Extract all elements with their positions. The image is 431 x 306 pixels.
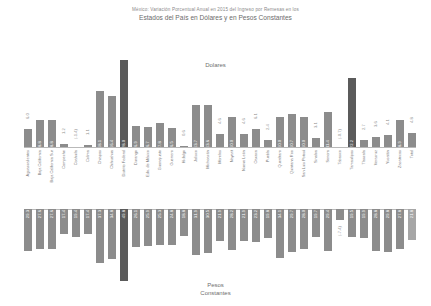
pesos-bar-value: 27.8 [398, 210, 402, 218]
dolares-bar: 6.9 [132, 126, 140, 148]
pesos-bar-value: 34.8 [110, 210, 114, 218]
dolares-bar-value: 8.8 [50, 141, 54, 147]
category-label: Tamaulipas [348, 150, 356, 194]
category-label-text: Campeche [62, 150, 66, 169]
dolares-bar-value: (-0.7) [338, 129, 342, 139]
dolares-bar-value: 1.1 [86, 129, 90, 135]
category-label: Querétaro [276, 150, 284, 194]
category-label-text: Tamaulipas [350, 150, 354, 170]
dolares-bar-value: 6.9 [134, 141, 138, 147]
dolares-bar-value: 7.8 [158, 141, 162, 147]
dolares-bar-value: 4.6 [218, 118, 222, 124]
category-label-text: Nuevo León [242, 150, 246, 171]
pesos-bar: 49.8 [120, 209, 128, 281]
dolares-bar-value: 1.2 [62, 128, 66, 134]
pesos-bar: 21.9 [216, 209, 224, 241]
pesos-bar-value: 17.4 [86, 210, 90, 218]
category-label-text: Edo. de México [146, 150, 150, 177]
pesos-bar-value: 19.9 [362, 210, 366, 218]
pesos-legend-line-1: Pesos [0, 281, 431, 289]
dolares-bar: 4.6 [240, 134, 248, 149]
pesos-bar-value: 17.4 [62, 210, 66, 218]
dolares-bar-value: 2.4 [266, 125, 270, 131]
category-label: Campeche [60, 150, 68, 194]
pesos-bar: 29.8 [384, 209, 392, 252]
category-label: Distrito Federal [120, 150, 128, 194]
pesos-bar: 25.3 [156, 209, 164, 245]
dolares-bar: 18.1 [96, 91, 104, 148]
dolares-bar: 4.8 [408, 133, 416, 148]
pesos-bar-value: 18.8 [182, 210, 186, 218]
title-line-2: Estados del País en Dólares y en Pesos C… [0, 13, 431, 22]
category-label-text: Jalisco [194, 150, 198, 162]
dolares-axis-line [24, 147, 416, 148]
dolares-bar: 4.6 [216, 134, 224, 149]
dolares-bar-value: 6.1 [254, 113, 258, 119]
dolares-bar: 11.4 [324, 112, 332, 148]
category-label-text: Nayarit [230, 150, 234, 162]
category-label-text: Chihuahua [110, 150, 114, 169]
pesos-bar: 31.9 [192, 209, 200, 255]
category-label-text: Baja California Sur [50, 150, 54, 182]
category-label: Guerrero [168, 150, 176, 194]
pesos-bar: 17.4 [84, 209, 92, 234]
pesos-bar-value: 23.2 [254, 210, 258, 218]
chart-title: México: Variación Porcentual Anual en 20… [0, 6, 431, 22]
pesos-bar: 29.3 [24, 209, 32, 251]
dolares-bar-value: 0.6 [182, 130, 186, 136]
category-label: Nayarit [228, 150, 236, 194]
category-label-text: Yucatán [386, 150, 390, 164]
dolares-bars: 6.08.88.81.2(-1.4)1.118.116.428.06.96.77… [24, 55, 416, 148]
category-label: Morelos [216, 150, 224, 194]
pesos-bar: 28.2 [228, 209, 236, 250]
category-label-text: Coahuila [74, 150, 78, 165]
category-label-text: Distrito Federal [122, 150, 126, 176]
category-axis-labels: AguascalientesBaja CaliforniaBaja Califo… [24, 150, 416, 194]
pesos-bar-value: 29.7 [290, 210, 294, 218]
pesos-bar-value: 34.1 [278, 210, 282, 218]
pesos-bar-value: 29.8 [386, 210, 390, 218]
category-label: Yucatán [384, 150, 392, 194]
pesos-bar: 30.5 [204, 209, 212, 253]
pesos-bar-value: 25.3 [158, 210, 162, 218]
category-label: Aguascalientes [24, 150, 32, 194]
category-label-text: Morelos [218, 150, 222, 164]
category-label-text: Puebla [266, 150, 270, 162]
dolares-bar-value: 6.0 [26, 113, 30, 119]
pesos-chart: 29.327.627.617.419.417.437.334.849.826.1… [24, 209, 416, 281]
pesos-bar-value: 25.9 [146, 210, 150, 218]
pesos-bar: 19.5 [348, 209, 356, 237]
category-label-text: Total [410, 150, 414, 158]
pesos-bar-value: 27.6 [50, 210, 54, 218]
category-label-text: Hidalgo [182, 150, 186, 163]
category-label: Jalisco [192, 150, 200, 194]
dolares-bar: 8.8 [36, 120, 44, 148]
pesos-bar: 29.4 [324, 209, 332, 251]
pesos-bar: 17.4 [60, 209, 68, 234]
pesos-bar-value: 21.8 [410, 210, 414, 218]
category-label: Tlaxcala [360, 150, 368, 194]
dolares-bar: 6.5 [168, 128, 176, 149]
pesos-bar-value: 28.2 [230, 210, 234, 218]
category-label: Michoacán [204, 150, 212, 194]
category-label-text: Tabasco [338, 150, 342, 165]
pesos-bar: 28.0 [300, 209, 308, 249]
dolares-bar: 13.6 [204, 105, 212, 148]
category-label-text: Guanajuato [158, 150, 162, 170]
category-label: Quintana Roo [288, 150, 296, 194]
pesos-bar-value: 19.5 [350, 210, 354, 218]
pesos-bar: 37.3 [96, 209, 104, 263]
category-label: Zacatecas [396, 150, 404, 194]
pesos-bar-value: 27.6 [38, 210, 42, 218]
category-label: Puebla [264, 150, 272, 194]
category-label-text: Guerrero [170, 150, 174, 166]
category-label-text: San Luis Potosí [302, 150, 306, 177]
pesos-bar: 27.6 [36, 209, 44, 249]
category-label: Sonora [324, 150, 332, 194]
dolares-bar: 28.0 [120, 60, 128, 148]
category-label-text: Querétaro [278, 150, 282, 168]
category-label: Oaxaca [252, 150, 260, 194]
category-label: Chihuahua [108, 150, 116, 194]
category-label: Durango [132, 150, 140, 194]
dolares-bar: 13.7 [192, 105, 200, 148]
